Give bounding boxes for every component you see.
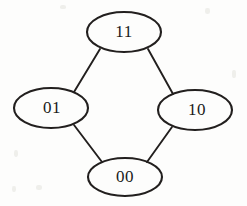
edge-11-10 [148,49,173,94]
scan-speck-5 [60,5,66,9]
node-ellipse-00[interactable] [88,158,162,196]
node-ellipse-10[interactable] [158,90,232,130]
scan-speck-1 [12,186,16,192]
edge-01-00 [74,125,102,162]
edge-11-01 [74,49,100,92]
edge-10-00 [147,127,172,162]
scan-speck-0 [14,150,18,157]
node-ellipse-01[interactable] [14,88,88,128]
scan-speck-4 [232,70,236,78]
diagram-canvas: 11011000 [0,0,247,206]
scan-speck-3 [205,8,210,14]
nodes-group [14,12,232,196]
graph-svg [0,0,247,206]
node-ellipse-11[interactable] [87,12,161,52]
scan-speck-2 [36,185,42,190]
